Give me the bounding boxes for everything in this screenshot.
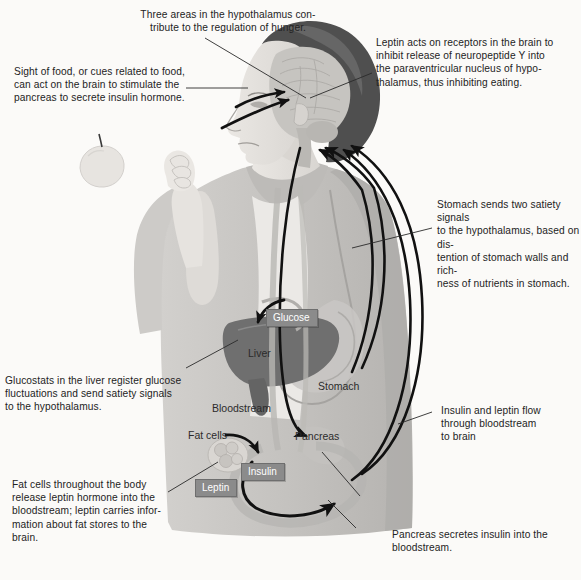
chip-label-glucose: Glucose [266, 309, 318, 327]
caption-leptin-receptors: Leptin acts on receptors in the brain to… [376, 36, 576, 89]
caption-fat-cells-leptin: Fat cells throughout the body release le… [12, 478, 172, 544]
caption-hypothalamus: Three areas in the hypothalamus con- tri… [118, 8, 338, 34]
organ-label-stomach: Stomach [318, 380, 359, 392]
cerebellum [306, 121, 338, 143]
caption-insulin-leptin-flow: Insulin and leptin flow through bloodstr… [441, 404, 581, 444]
caption-sight-of-food: Sight of food, or cues related to food, … [14, 65, 244, 105]
caption-stomach-satiety: Stomach sends two satiety signals to the… [437, 198, 581, 290]
chip-label-leptin: Leptin [195, 479, 237, 497]
organ-label-bloodstream: Bloodstream [212, 402, 271, 414]
caption-pancreas-insulin: Pancreas secretes insulin into the blood… [392, 528, 572, 554]
ear [294, 104, 308, 126]
organ-label-liver: Liver [248, 347, 271, 359]
organ-label-fat-cells: Fat cells [188, 429, 227, 441]
organ-label-pancreas: Pancreas [295, 430, 339, 442]
caption-glucostats: Glucostats in the liver register glucose… [5, 374, 195, 414]
chip-label-insulin: Insulin [241, 463, 285, 481]
